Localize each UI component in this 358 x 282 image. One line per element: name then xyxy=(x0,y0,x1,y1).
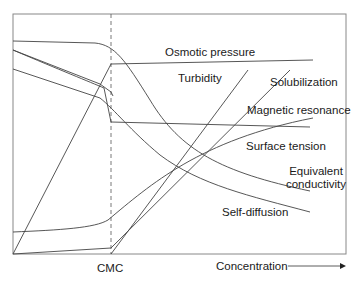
label-magnetic-resonance: Magnetic resonance xyxy=(247,104,351,117)
label-self-diffusion: Self-diffusion xyxy=(222,206,288,219)
concentration-arrow-head-icon xyxy=(340,263,346,269)
label-osmotic-pressure: Osmotic pressure xyxy=(165,46,255,59)
label-turbidity: Turbidity xyxy=(178,72,222,85)
label-equivalent-conductivity: Equivalent conductivity xyxy=(276,165,356,191)
label-concentration: Concentration xyxy=(216,260,288,273)
label-surface-tension: Surface tension xyxy=(246,140,326,153)
label-cmc: CMC xyxy=(97,262,123,275)
curve-turbidity xyxy=(111,70,248,254)
label-equivalent-line1: Equivalent xyxy=(276,165,356,178)
label-equivalent-line2: conductivity xyxy=(276,178,356,191)
curve-solubilization xyxy=(13,70,290,254)
label-solubilization: Solubilization xyxy=(270,76,338,89)
